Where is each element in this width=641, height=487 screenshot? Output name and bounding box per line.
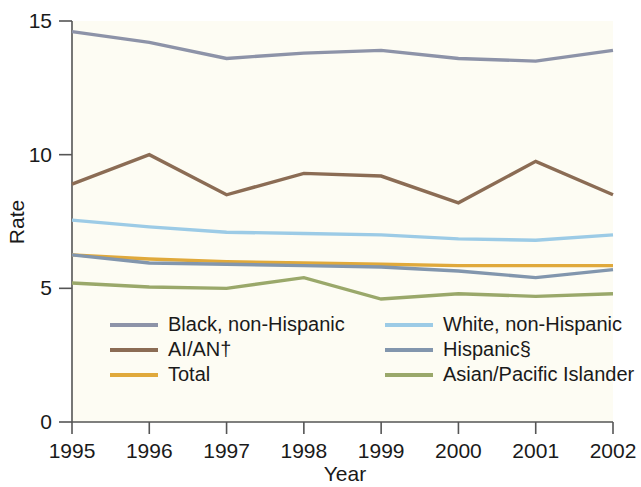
x-tick-label: 2002 <box>590 439 637 462</box>
x-tick-label: 1997 <box>203 439 250 462</box>
y-tick-label: 0 <box>40 410 52 433</box>
y-axis-ticks: 051015 <box>29 9 72 433</box>
legend-item-label: Black, non-Hispanic <box>168 313 345 335</box>
x-tick-label: 1998 <box>280 439 327 462</box>
y-axis-title: Rate <box>5 200 28 244</box>
legend-item-label: AI/AN† <box>168 338 231 360</box>
x-tick-label: 1996 <box>126 439 173 462</box>
y-tick-label: 10 <box>29 143 52 166</box>
legend-item-label: Total <box>168 363 210 385</box>
x-tick-label: 1999 <box>358 439 405 462</box>
line-chart: 051015 19951996199719981999200020012002 … <box>0 0 641 487</box>
legend-item-label: Hispanic§ <box>443 338 531 360</box>
legend-item-label: White, non-Hispanic <box>443 313 622 335</box>
y-tick-label: 15 <box>29 9 52 32</box>
chart-figure: 051015 19951996199719981999200020012002 … <box>0 0 641 487</box>
y-tick-label: 5 <box>40 276 52 299</box>
x-tick-label: 1995 <box>49 439 96 462</box>
x-axis-title: Year <box>324 462 366 485</box>
legend-item-label: Asian/Pacific Islander <box>443 363 635 385</box>
x-tick-label: 2000 <box>435 439 482 462</box>
plot-background <box>72 21 613 422</box>
x-axis-ticks: 19951996199719981999200020012002 <box>49 422 637 462</box>
x-tick-label: 2001 <box>512 439 559 462</box>
